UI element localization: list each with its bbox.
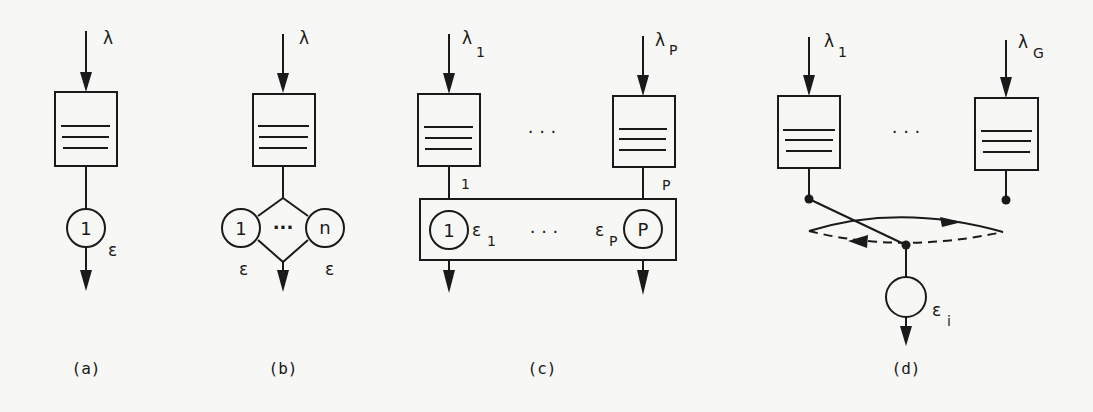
arrival-rate-subscript: 1	[838, 44, 847, 60]
arrival-rate-label-g: λ	[1018, 32, 1028, 52]
queueing-models-figure: λ 1 ε (a) λ 1	[0, 0, 1093, 412]
service-rate-label: ε	[932, 300, 941, 320]
server-label: 1	[235, 218, 246, 239]
arrowhead-down-icon	[1000, 77, 1012, 98]
panel-a: λ 1 ε (a)	[55, 28, 117, 378]
arrowhead-down-icon	[803, 75, 815, 96]
arrowhead-down-icon	[637, 270, 649, 295]
queue-buffer	[253, 94, 315, 166]
servers-ellipsis: · · ·	[530, 221, 559, 242]
arrowhead-down-icon	[900, 326, 912, 346]
arrival-rate-subscript: G	[1033, 45, 1044, 61]
arrival-rate-label-p: λ	[655, 30, 665, 50]
service-rate-subscript: i	[947, 313, 951, 329]
arrowhead-down-icon	[443, 270, 455, 293]
queue-buffer-1	[418, 94, 480, 166]
panel-caption: (c)	[528, 359, 557, 378]
server-circle-1: 1	[222, 209, 260, 247]
service-rate-label-left: ε	[239, 259, 248, 279]
panel-c: λ 1 1 · · · λ P P 1 ε 1 · ·	[418, 28, 677, 378]
arrowhead-right-icon	[940, 217, 962, 227]
server-circle-p: P	[624, 210, 662, 248]
arrival-rate-label-1: λ	[462, 28, 472, 48]
queue-buffer-g	[975, 98, 1038, 170]
service-rate-label-1: ε	[472, 220, 481, 240]
server-label: n	[319, 217, 330, 238]
panel-d: λ 1 · · · λ G	[778, 31, 1044, 378]
server-label: 1	[80, 218, 91, 239]
queue-tag-1: 1	[461, 176, 470, 192]
queue-buffer-1	[778, 96, 840, 168]
service-rate-subscript: P	[609, 233, 617, 249]
server-circle: 1	[67, 209, 105, 247]
server-circle	[886, 277, 926, 317]
service-rate-label-p: ε	[595, 220, 604, 240]
panel-caption: (d)	[892, 359, 921, 378]
queues-ellipsis: · · ·	[528, 121, 557, 142]
queue-buffer-p	[613, 96, 675, 167]
arrival-rate-subscript: P	[669, 42, 677, 58]
server-label: P	[638, 219, 649, 240]
server-circle-1: 1	[430, 211, 468, 249]
panel-caption: (b)	[269, 359, 298, 378]
panel-b: λ 1 ··· n ε ε (b)	[222, 28, 344, 378]
arrival-rate-label-1: λ	[824, 31, 834, 51]
queue-tag-p: P	[662, 177, 670, 193]
service-rate-label-right: ε	[325, 259, 334, 279]
arrival-rate-label: λ	[299, 28, 309, 48]
rotation-arc-solid	[809, 217, 1003, 232]
arrowhead-down-icon	[80, 72, 92, 92]
server-label: 1	[443, 220, 454, 241]
arrowhead-down-icon	[443, 73, 455, 94]
service-rate-subscript: 1	[487, 233, 496, 249]
queue-buffer	[55, 92, 117, 166]
arrowhead-down-icon	[277, 270, 289, 292]
switch-arm	[809, 199, 906, 245]
arrowhead-down-icon	[637, 75, 649, 96]
arrowhead-left-icon	[848, 235, 868, 248]
arrowhead-down-icon	[80, 270, 92, 291]
arrowhead-down-icon	[277, 73, 289, 93]
server-circle-n: n	[306, 209, 344, 247]
queues-ellipsis: · · ·	[892, 121, 921, 142]
service-rate-label: ε	[108, 240, 117, 260]
switch-contact-right	[1002, 196, 1011, 205]
arrival-rate-subscript: 1	[476, 44, 485, 60]
panel-caption: (a)	[72, 359, 101, 378]
arrival-arrow	[80, 31, 92, 92]
servers-ellipsis: ···	[273, 217, 294, 238]
arrival-rate-label: λ	[103, 28, 113, 48]
